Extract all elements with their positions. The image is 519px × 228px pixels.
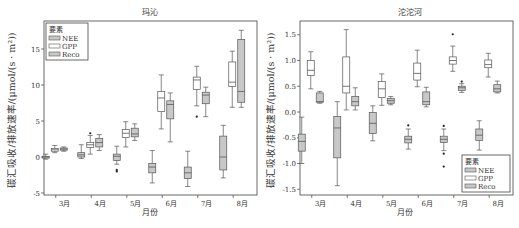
x-tick-label: 4月: [351, 200, 362, 208]
legend-swatch-nee: [49, 36, 60, 40]
legend-label-gpp: GPP: [62, 43, 77, 51]
boxplot-nee: [220, 125, 227, 178]
boxplot-reco: [202, 87, 209, 117]
x-tick-label: 7月: [457, 200, 468, 208]
x-tick-label: 6月: [166, 200, 177, 208]
boxplot-reco: [352, 88, 359, 110]
boxplot-reco: [60, 147, 67, 151]
figure: 玛沁 碳汇吸收/排放速率/(μmol/(s · m²)) 月份 -5051015…: [0, 0, 519, 228]
boxplot-nee: [369, 106, 376, 141]
x-tick-label: 5月: [386, 200, 397, 208]
legend: 要素 NEE GPP Reco: [462, 155, 510, 192]
legend-title: 要素: [49, 25, 63, 34]
legend-swatch-gpp: [465, 176, 476, 180]
chart-title: 玛沁: [142, 7, 158, 17]
boxplot-nee: [440, 125, 447, 168]
y-tick-label: 1.0: [285, 57, 296, 65]
boxplot-gpp: [449, 33, 456, 71]
y-tick-label: 0: [36, 154, 40, 162]
boxplot-reco: [316, 91, 323, 103]
boxplot-reco: [387, 97, 394, 105]
x-tick-label: 8月: [237, 200, 248, 208]
y-axis-label: 碳汇吸收/排放速率/(μmol/(s · m²)): [265, 32, 276, 187]
boxplot-gpp: [414, 50, 421, 87]
boxplot-nee: [149, 151, 156, 183]
boxplot-gpp: [87, 132, 94, 154]
legend-label-gpp: GPP: [478, 175, 493, 183]
boxplot-reco: [423, 87, 430, 107]
x-axis-label: 月份: [397, 207, 413, 217]
boxplot-nee: [334, 102, 341, 186]
boxplot-reco: [494, 81, 501, 93]
boxplot-gpp: [485, 53, 492, 77]
y-tick-label: 5: [36, 118, 40, 126]
y-tick-label: 1.5: [285, 31, 296, 39]
boxplot-reco: [96, 135, 103, 151]
chart-panel-tuotuohe: 沱沱河 碳汇吸收/排放速率/(μmol/(s · m²)) 月份 -1.5-1.…: [265, 7, 513, 217]
boxplot-gpp: [51, 145, 58, 152]
legend-swatch-reco: [465, 184, 476, 188]
x-tick-label: 7月: [201, 200, 212, 208]
y-tick-label: 15: [31, 46, 40, 54]
x-tick-label: 4月: [95, 200, 106, 208]
boxplot-nee: [42, 154, 49, 159]
x-tick-label: 3月: [315, 200, 326, 208]
boxplot-gpp: [229, 51, 236, 107]
y-ticks: -1.5-1.0-0.50.00.51.01.5: [283, 31, 301, 194]
boxplot-nee: [78, 145, 85, 159]
boxplot-gpp: [378, 74, 385, 105]
boxplot-reco: [131, 124, 138, 141]
y-tick-label: 0.0: [285, 109, 296, 117]
legend-title: 要素: [465, 157, 479, 166]
y-ticks: -5051015: [31, 46, 44, 198]
x-tick-label: 3月: [59, 200, 70, 208]
legend-label-nee: NEE: [478, 167, 494, 175]
y-tick-label: 10: [31, 82, 40, 90]
boxplot-gpp: [343, 30, 350, 110]
boxplot-gpp: [193, 66, 200, 118]
legend: 要素 NEE GPP Reco: [46, 23, 88, 60]
x-tick-label: 8月: [493, 200, 504, 208]
boxplot-gpp: [158, 75, 165, 129]
legend-label-nee: NEE: [62, 35, 78, 43]
y-tick-label: -5: [33, 190, 40, 198]
y-tick-label: -0.5: [283, 134, 297, 142]
boxplot-nee: [405, 124, 412, 149]
legend-swatch-gpp: [49, 44, 60, 48]
legend-swatch-nee: [465, 168, 476, 172]
boxplot-nee: [113, 146, 120, 172]
x-ticks: 3月4月5月6月7月8月: [56, 195, 248, 208]
boxplot-reco: [167, 93, 174, 142]
legend-swatch-reco: [49, 52, 60, 56]
x-ticks: 3月4月5月6月7月8月: [312, 195, 504, 208]
boxplot-nee: [298, 117, 305, 163]
boxplot-reco: [458, 81, 465, 93]
chart-panel-maqin: 玛沁 碳汇吸收/排放速率/(μmol/(s · m²)) 月份 -5051015…: [6, 7, 257, 217]
legend-label-reco: Reco: [478, 183, 496, 191]
y-tick-label: -1.0: [283, 160, 297, 168]
x-axis-label: 月份: [142, 207, 158, 217]
x-tick-label: 6月: [422, 200, 433, 208]
y-axis-label: 碳汇吸收/排放速率/(μmol/(s · m²)): [6, 32, 17, 187]
boxplot-reco: [238, 30, 245, 107]
y-tick-label: -1.5: [283, 186, 297, 194]
boxplot-gpp: [307, 52, 314, 89]
boxplot-nee: [184, 151, 191, 186]
boxplot-gpp: [122, 122, 129, 147]
legend-label-reco: Reco: [62, 51, 80, 59]
chart-title: 沱沱河: [398, 7, 422, 17]
boxplot-nee: [476, 121, 483, 150]
x-tick-label: 5月: [130, 200, 141, 208]
y-tick-label: 0.5: [285, 83, 296, 91]
